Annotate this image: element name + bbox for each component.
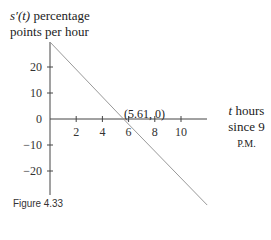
y-tick-label: 20 <box>30 60 42 74</box>
y-tick-label: −10 <box>23 138 42 152</box>
y-ticks: 20100−10−20 <box>23 60 53 178</box>
x-axis-label: t hours since 9 P.M. <box>222 103 271 152</box>
x-tick-label: 4 <box>99 125 105 139</box>
x-tick-label: 10 <box>175 125 187 139</box>
x-axis-reference-time: P.M. <box>237 138 255 149</box>
x-axis-units: hours <box>232 103 264 118</box>
y-tick-label: −20 <box>23 164 42 178</box>
x-axis-reference: since 9 <box>228 119 264 134</box>
derivative-line <box>50 42 207 205</box>
x-tick-label: 2 <box>73 125 79 139</box>
x-tick-label: 8 <box>152 125 158 139</box>
zero-crossing-annotation: (5.61, 0) <box>124 107 165 122</box>
y-tick-label: 10 <box>30 86 42 100</box>
y-tick-label: 0 <box>36 112 42 126</box>
figure-caption: Figure 4.33 <box>13 197 63 209</box>
